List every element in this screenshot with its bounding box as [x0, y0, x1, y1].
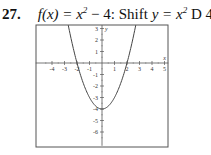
y-tick-label: -5	[93, 118, 98, 124]
y-tick-label: -6	[93, 129, 98, 135]
y-tick-label: 2	[95, 37, 98, 43]
x-tick-label: -3	[62, 66, 67, 72]
x-tick-label: 5	[163, 66, 166, 72]
y-tick-label: -1	[93, 72, 98, 78]
x-tick-label: 4	[151, 66, 154, 72]
y-tick-label: 3	[95, 26, 98, 32]
y-tick-label: -2	[93, 83, 98, 89]
x-axis-label: x	[162, 55, 166, 61]
function-graph: -4-3-2-112345 321-1-2-3-4-5-6 x y	[0, 0, 211, 155]
x-tick-label: 3	[138, 66, 141, 72]
y-tick-label: 1	[95, 49, 98, 55]
x-tick-label: -4	[50, 66, 55, 72]
x-tick-label: 1	[113, 66, 116, 72]
y-axis-label: y	[104, 26, 108, 32]
y-tick-label: -3	[93, 95, 98, 101]
x-tick-label: -1	[87, 66, 92, 72]
